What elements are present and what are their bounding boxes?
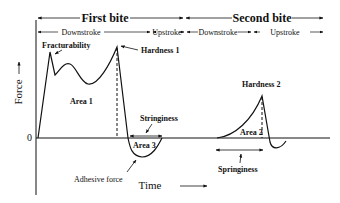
area3-label: Area 3 — [133, 141, 156, 150]
area2-label: Area 2 — [240, 128, 263, 137]
adhesive-force-label: Adhesive force — [74, 175, 123, 184]
stringiness-label: Stringiness — [140, 114, 178, 123]
springiness-pointer — [240, 154, 241, 163]
stroke-label-4: Upstroke — [270, 28, 300, 37]
second-bite-curve — [217, 96, 286, 148]
stringiness-pointer — [146, 124, 152, 133]
first-bite-curve — [38, 47, 128, 138]
hardness1-label: Hardness 1 — [141, 46, 179, 55]
stroke-label-2: Upstroke — [152, 28, 182, 37]
first-bite-label: First bite — [82, 11, 130, 25]
force-axis-label-group: Force — [12, 79, 24, 104]
hardness2-label: Hardness 2 — [242, 80, 280, 89]
adhesive-force-pointer — [127, 160, 136, 172]
area1-label: Area 1 — [70, 97, 93, 106]
texture-profile-diagram: First bite Second bite Downstroke Upstro… — [0, 0, 340, 203]
stroke-label-1: Downstroke — [61, 28, 101, 37]
fracturability-pointer — [55, 50, 62, 54]
fracturability-label: Fracturability — [42, 41, 90, 50]
hardness1-pointer — [121, 46, 138, 50]
time-label: Time — [139, 179, 162, 191]
force-label: Force — [12, 79, 24, 104]
second-bite-label: Second bite — [232, 11, 292, 25]
zero-label: 0 — [27, 132, 32, 143]
springiness-label: Springiness — [218, 165, 258, 174]
stroke-label-3: Downstroke — [198, 28, 238, 37]
